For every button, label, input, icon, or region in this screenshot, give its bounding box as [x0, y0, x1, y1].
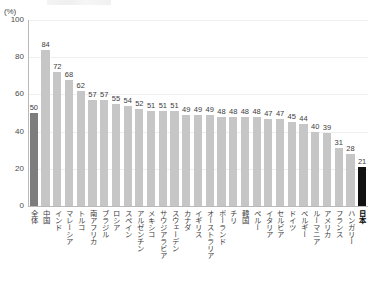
bar-slot: 49: [206, 20, 214, 206]
bar-slot: 28: [346, 20, 354, 206]
x-category-label: カナダ: [182, 209, 190, 230]
x-category-label: ポーランド: [217, 209, 225, 244]
bar-slot: 39: [323, 20, 331, 206]
bar: [241, 117, 249, 206]
x-category-label: 日本: [358, 209, 366, 223]
bar-slot: 50: [30, 20, 38, 206]
y-tick-label: 40: [15, 128, 24, 136]
bar: [206, 115, 214, 206]
x-category-label: ドイツ: [288, 209, 296, 230]
bar: [299, 124, 307, 206]
bar-slot: 31: [335, 20, 343, 206]
x-category-label: アメリカ: [323, 209, 331, 237]
bar-value-label: 49: [194, 106, 202, 114]
bar: [276, 119, 284, 206]
bar-slot: 40: [311, 20, 319, 206]
bar-slot: 52: [135, 20, 143, 206]
bar: [182, 115, 190, 206]
bar-value-label: 72: [53, 63, 61, 71]
bar-slot: 51: [147, 20, 155, 206]
x-category-label: メキシコ: [147, 209, 155, 237]
bar-value-label: 51: [159, 102, 167, 110]
bar-chart: (%) 020406080100 50847268625757555452515…: [0, 0, 371, 281]
x-category-label: イギリス: [194, 209, 202, 237]
bar-slot: 49: [194, 20, 202, 206]
bar-slot: 48: [241, 20, 249, 206]
x-category-label: セルビア: [276, 209, 284, 237]
bar-value-label: 57: [88, 91, 96, 99]
x-category-label: 全体: [30, 209, 38, 223]
x-category-label: スウェーデン: [171, 209, 179, 251]
bar-value-label: 54: [123, 97, 131, 105]
y-tick-label: 0: [20, 202, 24, 210]
bar: [159, 111, 167, 206]
bar-slot: 21: [358, 20, 366, 206]
bar: [100, 100, 108, 206]
bar-slot: 45: [288, 20, 296, 206]
bar-slot: 72: [53, 20, 61, 206]
bar: [194, 115, 202, 206]
bar-value-label: 68: [65, 71, 73, 79]
bar-slot: 54: [124, 20, 132, 206]
bar: [147, 111, 155, 206]
bar: [311, 132, 319, 206]
bar-value-label: 28: [346, 145, 354, 153]
bar-value-label: 50: [30, 104, 38, 112]
x-category-label: サウジアラビア: [159, 209, 167, 258]
bar: [88, 100, 96, 206]
bar-value-label: 48: [217, 108, 225, 116]
bar-value-label: 31: [335, 139, 343, 147]
x-category-label: オーストラリア: [206, 209, 214, 258]
bar-slot: 57: [88, 20, 96, 206]
x-category-label: 南アフリカ: [88, 209, 96, 244]
x-category-label: ハンガリー: [346, 209, 354, 244]
x-category-label: フランス: [335, 209, 343, 237]
bar-slot: 48: [253, 20, 261, 206]
bar-slot: 47: [264, 20, 272, 206]
bar-value-label: 44: [299, 115, 307, 123]
bar-value-label: 57: [100, 91, 108, 99]
bar-slot: 55: [112, 20, 120, 206]
bar-slot: 51: [170, 20, 178, 206]
y-tick-label: 80: [15, 53, 24, 61]
bar-value-label: 51: [147, 102, 155, 110]
bar: [112, 104, 120, 206]
bar: [253, 117, 261, 206]
x-axis-category-labels: 全体中国インドマレーシアトルコ南アフリカブラジルロシアスペインアルゼンチンメキシ…: [28, 209, 368, 281]
x-category-label: ベルギー: [300, 209, 308, 237]
bar: [170, 111, 178, 206]
bar: [229, 117, 237, 206]
bar: [65, 80, 73, 206]
bar-slot: 48: [217, 20, 225, 206]
bar-value-label: 84: [41, 41, 49, 49]
x-category-label: ブラジル: [100, 209, 108, 237]
bar-value-label: 48: [229, 108, 237, 116]
x-category-label: マレーシア: [65, 209, 73, 244]
bar-slot: 51: [159, 20, 167, 206]
bar-slot: 47: [276, 20, 284, 206]
bar-value-label: 47: [264, 110, 272, 118]
bar: [53, 72, 61, 206]
bar-value-label: 49: [206, 106, 214, 114]
bar: [346, 154, 354, 206]
bar-series: 5084726862575755545251515149494948484848…: [28, 20, 368, 206]
x-category-label: イタリア: [264, 209, 272, 237]
bar: [288, 122, 296, 206]
bar-value-label: 21: [358, 158, 366, 166]
bar: [335, 148, 343, 206]
x-category-label: 韓国: [241, 209, 249, 223]
y-tick-label: 60: [15, 90, 24, 98]
bar-slot: 44: [299, 20, 307, 206]
x-category-label: チリ: [229, 209, 237, 223]
bar-value-label: 55: [112, 95, 120, 103]
bar: [41, 50, 49, 206]
bar: [264, 119, 272, 206]
x-category-label: 中国: [42, 209, 50, 223]
bar-value-label: 51: [170, 102, 178, 110]
bar: [323, 133, 331, 206]
bar-value-label: 49: [182, 106, 190, 114]
bar-slot: 48: [229, 20, 237, 206]
bar: [217, 117, 225, 206]
bar-value-label: 48: [252, 108, 260, 116]
bar-value-label: 39: [323, 124, 331, 132]
